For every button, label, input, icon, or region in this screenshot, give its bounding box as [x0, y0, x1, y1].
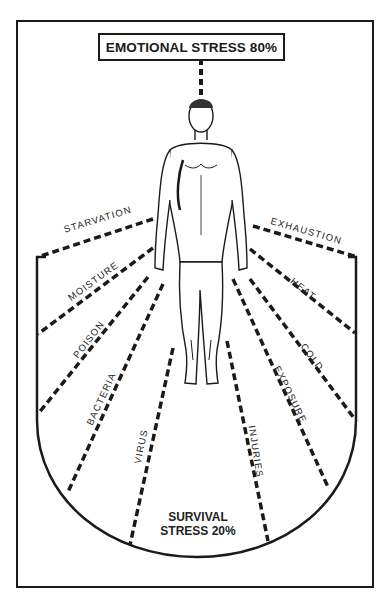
emotional-stress-title: EMOTIONAL STRESS 80% [98, 33, 285, 61]
right-stressor-lines [227, 226, 357, 541]
human-figure [155, 99, 247, 384]
stress-diagram: EMOTIONAL STRESS 80% STARVATION MOISTURE… [0, 0, 389, 602]
survival-stress-label: SURVIVAL STRESS 20% [148, 510, 248, 538]
poison-line [38, 277, 148, 414]
survival-stress-line1: SURVIVAL [148, 510, 248, 524]
survival-stress-line2: STRESS 20% [148, 524, 248, 538]
